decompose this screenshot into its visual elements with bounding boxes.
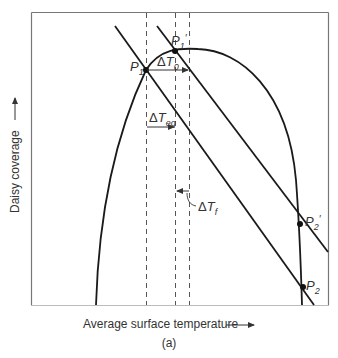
label-delta-t0: ΔT0 xyxy=(157,54,179,72)
label-delta-tf: ΔTf xyxy=(198,199,219,217)
y-axis-label: Daisy coverage xyxy=(8,130,22,213)
figure-caption: (a) xyxy=(162,336,177,350)
label-p1: P1 xyxy=(130,59,144,77)
point-p2-prime xyxy=(297,221,303,227)
delta-tf-leader xyxy=(187,193,196,206)
daisyworld-diagram: P1 P1′ P2′ P2 ΔT0 ΔTeq ΔTf Daisy coverag… xyxy=(0,0,338,358)
label-p2-prime: P2′ xyxy=(305,214,322,232)
label-p2: P2 xyxy=(306,278,320,296)
label-delta-teq: ΔTeq xyxy=(149,110,176,128)
y-axis-label-group: Daisy coverage xyxy=(8,98,22,213)
response-line-shifted xyxy=(157,26,328,252)
x-axis-label: Average surface temperature xyxy=(83,317,239,331)
